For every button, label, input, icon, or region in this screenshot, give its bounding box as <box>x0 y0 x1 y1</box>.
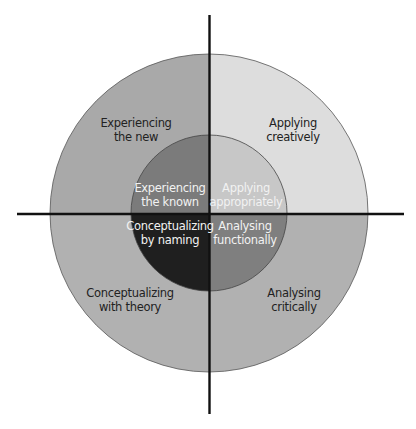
diagram-graphic <box>0 0 416 429</box>
label-applying-creatively: Applying creatively <box>266 116 320 144</box>
label-conceptualizing-by-naming: Conceptualizing by naming <box>126 219 214 247</box>
knowledge-processes-diagram: Experiencing the new Applying creatively… <box>0 0 416 429</box>
label-analysing-critically: Analysing critically <box>267 286 320 314</box>
label-applying-appropriately: Applying appropriately <box>209 181 282 209</box>
label-experiencing-the-known: Experiencing the known <box>134 181 205 209</box>
label-experiencing-the-new: Experiencing the new <box>100 116 171 144</box>
label-conceptualizing-with-theory: Conceptualizing with theory <box>86 286 174 314</box>
label-analysing-functionally: Analysing functionally <box>213 219 277 247</box>
